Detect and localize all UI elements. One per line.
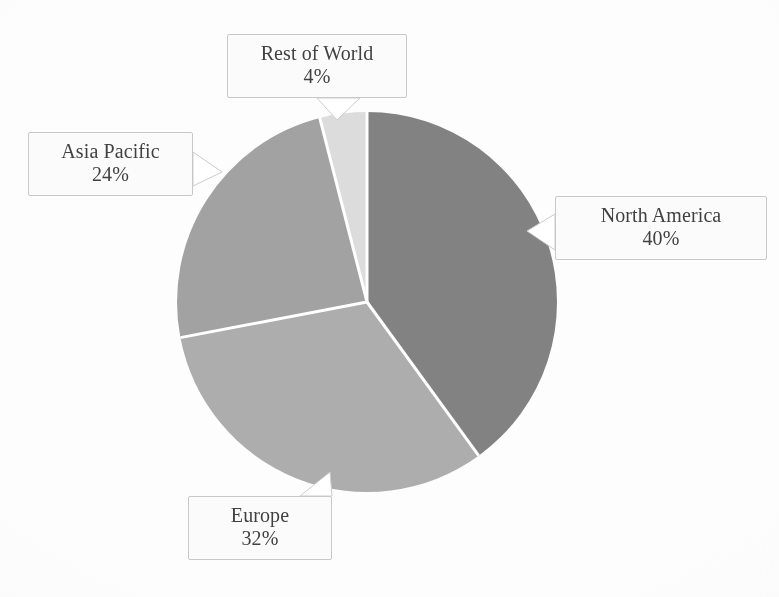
pie-chart: Rest of World 4% Asia Pacific 24% North … (0, 0, 779, 597)
callout-europe-value: 32% (200, 527, 320, 549)
callout-north-america: North America 40% (555, 196, 767, 260)
callout-north-america-value: 40% (567, 227, 755, 249)
callout-europe-label: Europe (200, 504, 320, 526)
scan-grain-overlay (177, 112, 557, 492)
callout-europe: Europe 32% (188, 496, 332, 560)
callout-rest-of-world-label: Rest of World (239, 42, 395, 64)
callout-asia-pacific-value: 24% (40, 163, 181, 185)
callout-asia-pacific-label: Asia Pacific (40, 140, 181, 162)
callout-north-america-label: North America (567, 204, 755, 226)
callout-asia-pacific: Asia Pacific 24% (28, 132, 193, 196)
callout-rest-of-world: Rest of World 4% (227, 34, 407, 98)
callout-rest-of-world-value: 4% (239, 65, 395, 87)
